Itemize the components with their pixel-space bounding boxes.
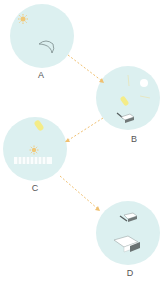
arrow-a-to-b	[68, 55, 104, 83]
large-block-icon	[114, 236, 140, 252]
diagram-canvas: A B C D	[0, 0, 168, 283]
arrow-c-to-d	[60, 176, 100, 211]
sun-icon	[30, 146, 39, 155]
arrow-b-to-c	[65, 118, 103, 142]
block-icon	[117, 113, 134, 123]
white-disc-icon	[140, 79, 148, 87]
panel-label-a: A	[31, 70, 51, 80]
yellow-capsule-icon	[33, 119, 44, 131]
sun-icon	[18, 14, 28, 24]
faint-sticks-icon	[128, 75, 150, 98]
panel-label-c: C	[25, 183, 45, 193]
striped-band-icon	[14, 157, 52, 164]
small-block-icon	[120, 213, 137, 222]
panel-label-b: B	[124, 134, 144, 144]
panel-label-d: D	[120, 268, 140, 278]
crescent-icon	[39, 41, 54, 53]
yellow-capsule-icon	[120, 95, 130, 106]
